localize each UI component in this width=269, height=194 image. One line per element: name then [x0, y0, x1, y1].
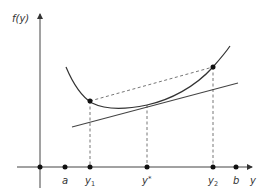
y2-dot: [211, 165, 216, 170]
a-dot: [63, 165, 68, 170]
y1-label: y1: [84, 175, 95, 188]
origin-dot: [38, 165, 43, 170]
y2-label: y2: [207, 175, 218, 188]
point-f-y2: [211, 65, 216, 70]
point-f-y1: [88, 99, 93, 104]
diagram-canvas: f(y) y a y1 y* y2 b: [0, 0, 269, 194]
ystar-dot: [145, 165, 150, 170]
ystar-label: y*: [141, 175, 152, 186]
a-label: a: [62, 175, 68, 186]
y1-dot: [88, 165, 93, 170]
b-dot: [234, 165, 239, 170]
y-axis-label: f(y): [12, 13, 29, 24]
x-axis-label: y: [249, 175, 257, 186]
b-label: b: [233, 175, 239, 186]
